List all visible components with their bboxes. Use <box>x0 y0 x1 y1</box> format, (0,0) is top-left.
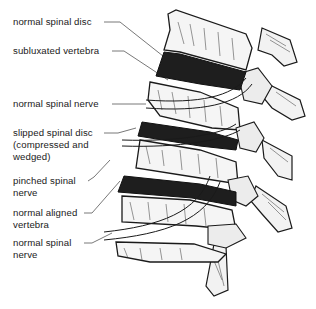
label-subluxated-vertebra: subluxated vertebra <box>13 45 99 57</box>
label-pinched-spinal-nerve: pinched spinal nerve <box>13 175 76 199</box>
label-normal-spinal-nerve-bottom: normal spinal nerve <box>13 237 71 261</box>
label-normal-spinal-disc: normal spinal disc <box>13 16 92 28</box>
spine-diagram: normal spinal disc subluxated vertebra n… <box>0 0 316 309</box>
label-normal-aligned-vertebra: normal aligned vertebra <box>13 207 77 231</box>
label-slipped-spinal-disc: slipped spinal disc (compressed and wedg… <box>13 127 93 163</box>
label-normal-spinal-nerve-top: normal spinal nerve <box>13 98 99 110</box>
